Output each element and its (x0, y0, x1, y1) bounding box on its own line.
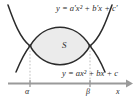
parabola-area-figure: y = a′x² + b′x + c′ y = ax² + bx + c S α… (0, 0, 137, 111)
shaded-region-label: S (62, 41, 67, 50)
intersection-point-alpha (28, 44, 31, 47)
x-axis-label: x (116, 88, 120, 96)
x-axis-arrowhead (126, 80, 133, 88)
shaded-region-s (30, 27, 90, 65)
x-tick-label-beta: β (86, 88, 90, 96)
lower-curve-equation-label: y = ax² + bx + c (62, 69, 118, 78)
x-tick-label-alpha: α (25, 88, 29, 96)
upper-curve-equation-label: y = a′x² + b′x + c′ (56, 4, 118, 13)
intersection-point-beta (88, 44, 91, 47)
